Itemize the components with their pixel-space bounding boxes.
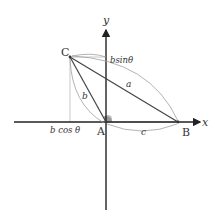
vertex-a-label: A: [96, 125, 106, 138]
vertex-b-dot: [177, 121, 180, 124]
x-axis-label: x: [202, 116, 209, 129]
vertex-c-label: C: [61, 46, 69, 59]
side-b-label: b: [82, 91, 88, 101]
side-b-line: [70, 57, 106, 122]
side-a-label: a: [126, 79, 131, 89]
bcos-theta-label: b cos θ: [50, 125, 80, 135]
side-c-label: c: [141, 127, 146, 137]
side-a-line: [70, 57, 178, 122]
y-axis-label: y: [102, 14, 110, 27]
bsin-theta-label: bsinθ: [110, 55, 133, 65]
vertex-b-label: B: [182, 126, 190, 139]
triangle: [70, 57, 178, 122]
triangle-coordinate-diagram: y x C A B a b c bsinθ b cos θ: [0, 0, 215, 222]
